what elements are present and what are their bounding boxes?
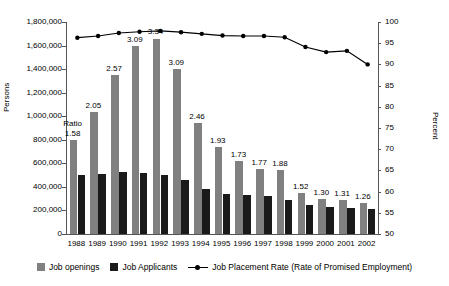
plot-area (66, 22, 379, 235)
placement-rate-point (283, 35, 287, 39)
placement-rate-point (365, 62, 369, 66)
y-axis-right-title: Percent (431, 112, 440, 140)
y-axis-left-tick-label: 0 (6, 229, 62, 238)
y-axis-left-tick-label: 800,000 (6, 135, 62, 144)
y-axis-left-tick-label: 1,400,000 (6, 64, 62, 73)
legend-item-job-openings: Job openings (37, 262, 100, 272)
y-axis-right-tick-label: 100 (385, 17, 398, 26)
chart-container: Persons Percent 0200,000400,000600,00080… (0, 0, 449, 286)
placement-rate-point (324, 50, 328, 54)
y-axis-left-tick-label: 200,000 (6, 205, 62, 214)
y-axis-right-tick-label: 95 (385, 38, 394, 47)
placement-rate-point (75, 35, 79, 39)
legend-label-job-placement-rate: Job Placement Rate (Rate of Promised Emp… (212, 262, 412, 272)
y-axis-left-tick-label: 400,000 (6, 182, 62, 191)
placement-rate-point (345, 49, 349, 53)
y-axis-right-tick-label: 80 (385, 102, 394, 111)
line-marker-swatch-icon (188, 263, 208, 271)
y-axis-right-tick-label: 85 (385, 81, 394, 90)
ratio-value-label: 1.93 (203, 136, 233, 145)
placement-rate-line (67, 22, 378, 234)
legend-item-job-placement-rate: Job Placement Rate (Rate of Promised Emp… (188, 262, 412, 272)
y-axis-left-tick-label: 1,600,000 (6, 41, 62, 50)
ratio-value-label: 1.58 (58, 129, 88, 138)
y-axis-left-tick-label: 1,800,000 (6, 17, 62, 26)
legend-label-job-openings: Job openings (49, 262, 100, 272)
placement-rate-point (200, 32, 204, 36)
y-axis-left-tick-label: 1,200,000 (6, 88, 62, 97)
black-square-swatch-icon (110, 263, 118, 271)
ratio-value-label: 2.57 (99, 64, 129, 73)
y-axis-right-tick-label: 65 (385, 165, 394, 174)
legend-label-job-applicants: Job Applicants (122, 262, 177, 272)
placement-rate-point (262, 34, 266, 38)
y-axis-left-tick-label: 1,000,000 (6, 111, 62, 120)
gray-square-swatch-icon (37, 263, 45, 271)
y-axis-right-tick-label: 50 (385, 229, 394, 238)
x-axis-tick-label: 2002 (353, 239, 381, 248)
placement-rate-point (96, 34, 100, 38)
ratio-value-label: 1.88 (265, 159, 295, 168)
y-axis-right-tick-label: 90 (385, 59, 394, 68)
y-axis-right-tick-label: 60 (385, 187, 394, 196)
placement-rate-point (303, 45, 307, 49)
ratio-value-label: 2.05 (78, 101, 108, 110)
ratio-value-label: 3.09 (161, 58, 191, 67)
y-axis-left-tick-label: 600,000 (6, 158, 62, 167)
ratio-prefix-label: Ratio (58, 119, 88, 128)
ratio-value-label: 1.26 (348, 192, 378, 201)
placement-rate-point (179, 30, 183, 34)
placement-rate-point (241, 34, 245, 38)
placement-rate-point (220, 33, 224, 37)
chart-legend: Job openings Job Applicants Job Placemen… (0, 262, 449, 272)
ratio-value-label: 2.46 (182, 112, 212, 121)
ratio-value-label: 3.34 (141, 27, 171, 36)
y-axis-right-tick-label: 55 (385, 208, 394, 217)
y-axis-right-tick-label: 75 (385, 123, 394, 132)
y-axis-right-tick-label: 70 (385, 144, 394, 153)
legend-item-job-applicants: Job Applicants (110, 262, 177, 272)
